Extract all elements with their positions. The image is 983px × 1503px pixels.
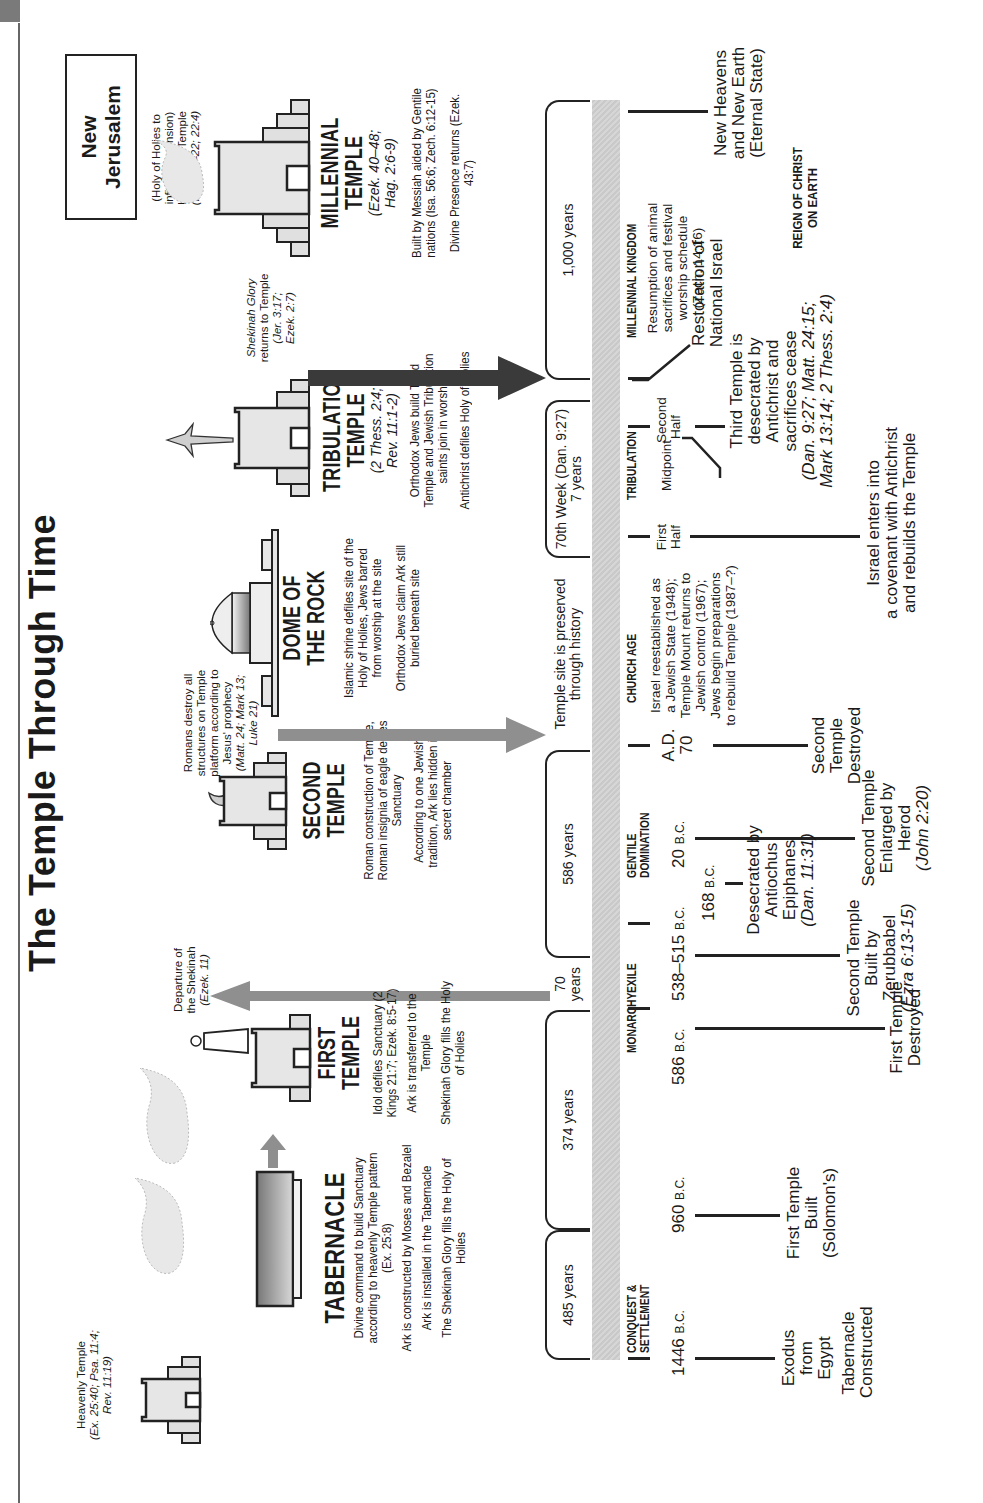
event-second-temple-destroyed: Second Temple Destroyed [810, 688, 864, 803]
first-half-label: First Half [655, 523, 683, 551]
midpoint-connector [680, 433, 734, 483]
leader-line-586 [695, 1027, 885, 1030]
date-586: 586 B.C. [670, 1029, 689, 1085]
new-jerusalem-label-2: Jerusalem [101, 62, 125, 212]
shekinah-returns-arrow [308, 353, 552, 403]
millennial-temple-icon [205, 98, 311, 258]
era-millennial-kingdom: MILLENNIAL KINGDOM [626, 224, 639, 338]
era-tick [628, 110, 708, 113]
era-tick [628, 1357, 650, 1360]
shekinah-returns-note: Shekinah Glory returns to Temple (Jer. 3… [245, 263, 297, 373]
bracket-374-years: 374 years [545, 1010, 590, 1230]
era-tribulation: TRIBULATION [626, 431, 639, 500]
reign-of-christ: REIGN OF CHRIST ON EARTH [790, 143, 820, 254]
dome-of-the-rock-icon [210, 528, 280, 718]
angel-figure-icon [190, 1023, 250, 1063]
bracket-70th-week: 70th Week (Dan. 9:27) 7 years [545, 400, 590, 558]
leader-line-168 [725, 882, 743, 885]
millennial-cloud-icon [150, 138, 210, 208]
rotated-diagram-page: The Temple Through Time New Jerusalem (H… [0, 0, 983, 1503]
new-jerusalem-box: New Jerusalem [65, 54, 137, 220]
second-half-label: Second Half [655, 411, 683, 443]
heavenly-temple-icon [140, 1355, 202, 1445]
era-tick [628, 535, 650, 538]
event-third-temple-desecrated: Third Temple is desecrated by Antichrist… [728, 291, 836, 491]
leader-line-1446 [695, 1357, 775, 1360]
millennial-temple-section: MILLENNIAL TEMPLE (Ezek. 40–48; Hag. 2:6… [318, 73, 476, 273]
era-church-age: CHURCH AGE [626, 634, 639, 703]
date-960: 960 B.C. [670, 1177, 689, 1233]
first-temple-section: FIRST TEMPLE Idol defiles Sanctuary (2 K… [315, 973, 467, 1133]
event-covenant: Israel enters into a covenant with Antic… [865, 423, 919, 623]
romans-arrow [278, 715, 552, 755]
era-conquest: CONQUEST & SETTLEMENT [626, 1285, 652, 1353]
church-age-note: Israel reestablished as a Jewish State (… [648, 563, 738, 728]
timeline-band [592, 100, 620, 1360]
temple-site-preserved: Temple site is preserved through history [545, 560, 590, 748]
era-tick [628, 425, 650, 428]
event-resumption: Resumption of animal sacrifices and fest… [645, 193, 705, 343]
date-20: 20 B.C. [670, 821, 689, 868]
small-arrow-right [258, 1132, 292, 1168]
event-second-temple-built: Second Temple Built by Zerubbabel (Ezra … [845, 898, 917, 1018]
shekinah-cloud-icon [135, 1063, 195, 1173]
new-jerusalem-label-1: New [77, 62, 101, 212]
bracket-1000-years: 1,000 years [545, 100, 590, 380]
era-monarchy: MONARCHY [626, 993, 639, 1053]
era-gentile-domination: GENTILE DOMINATION [626, 813, 652, 878]
tabernacle-heading: TABERNACLE [320, 1158, 350, 1337]
event-exodus: Exodus from Egypt [780, 1323, 834, 1393]
bracket-70-years: 70 years [545, 958, 590, 1010]
event-enlarged-herod: Second Temple Enlarged by Herod (John 2:… [860, 758, 932, 898]
header-tab [0, 0, 20, 22]
era-tick [628, 744, 650, 747]
bracket-485-years: 485 years [545, 1230, 590, 1360]
bracket-586-years: 586 years [545, 750, 590, 958]
leader-line-second-half [695, 425, 725, 428]
glory-cloud-icon [130, 1173, 190, 1283]
departure-note: Departure of the Shekinah (Ezek. 11) [172, 935, 211, 1025]
era-exile: EXILE [626, 963, 639, 993]
event-tabernacle-constructed: Tabernacle Constructed [840, 1308, 876, 1398]
date-538-515: 538–515 B.C. [670, 907, 689, 1001]
leader-line-960 [695, 1214, 780, 1217]
page-title: The Temple Through Time [22, 483, 64, 1003]
era-tick [628, 1007, 650, 1010]
date-1446: 1446 B.C. [670, 1310, 689, 1376]
tabernacle-icon [255, 1168, 305, 1308]
leader-line-ad70 [713, 744, 808, 747]
event-desecrated-antiochus: Desecrated by Antiochus Epiphanes (Dan. … [745, 825, 817, 935]
event-first-temple-built: First Temple Built (Solomon's) [785, 1163, 839, 1263]
first-temple-icon [250, 1013, 312, 1103]
dome-of-the-rock-section: DOME OF THE ROCK Islamic shrine defiles … [280, 528, 422, 708]
tabernacle-section: TABERNACLE Divine command to build Sanct… [320, 1133, 468, 1363]
leader-line-538 [695, 954, 840, 957]
antichrist-figure-icon [165, 422, 235, 458]
era-tick [628, 922, 650, 925]
tribulation-temple-icon [233, 378, 311, 498]
heavenly-temple-label: Heavenly Temple (Ex. 25:40; Psa. 11:4; R… [75, 1320, 114, 1450]
leader-line-first-half [690, 535, 860, 538]
date-168: 168 B.C. [700, 865, 719, 921]
date-ad-70: A.D. 70 [660, 727, 696, 763]
event-new-heavens: New Heavens and New Earth (Eternal State… [712, 43, 766, 163]
header-rule [18, 23, 20, 1503]
midpoint-label: Midpoint [660, 440, 674, 491]
